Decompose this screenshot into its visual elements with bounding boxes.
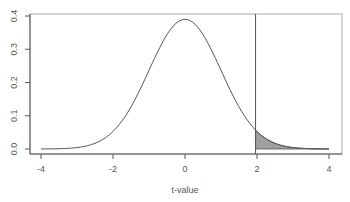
density-curve <box>41 19 329 149</box>
y-axis: 0.00.10.20.30.4 <box>9 10 30 156</box>
y-tick-label: 0.3 <box>9 43 19 56</box>
y-tick-label: 0.4 <box>9 10 19 23</box>
density-line <box>41 19 329 149</box>
y-tick-label: 0.0 <box>9 143 19 156</box>
x-tick-label: -2 <box>109 164 117 174</box>
y-tick-label: 0.1 <box>9 109 19 122</box>
x-tick-label: 2 <box>254 164 259 174</box>
x-tick-label: -4 <box>37 164 45 174</box>
t-distribution-chart: -4-2024 0.00.10.20.30.4 t-value <box>0 0 350 202</box>
x-tick-label: 0 <box>182 164 187 174</box>
plot-border <box>30 14 342 154</box>
x-axis-title: t-value <box>171 185 198 195</box>
x-axis: -4-2024 <box>30 154 342 174</box>
y-tick-label: 0.2 <box>9 76 19 89</box>
x-tick-label: 4 <box>326 164 331 174</box>
